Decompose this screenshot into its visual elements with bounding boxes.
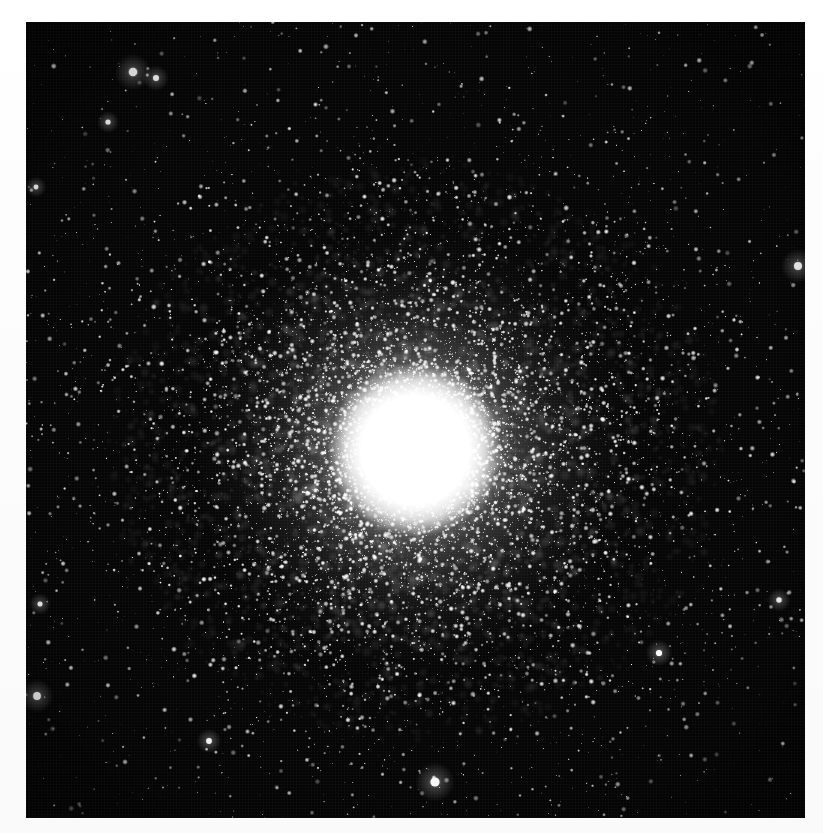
screenshot-page	[0, 0, 823, 833]
photographic-plate	[26, 22, 805, 818]
bright-field-stars-canvas	[26, 22, 805, 818]
